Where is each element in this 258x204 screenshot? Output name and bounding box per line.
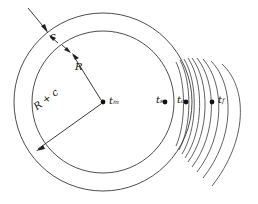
temperature-dot-tf <box>210 100 215 105</box>
temperature-label-tf: tf <box>218 95 224 105</box>
temperature-label-tm: tm <box>109 96 119 106</box>
temperature-label-ts-sub: s <box>160 97 163 104</box>
temperature-label-tc: tc <box>177 95 185 105</box>
radius-Rc-leader-line <box>38 104 101 149</box>
radius-Rc-arrowhead <box>36 145 45 151</box>
inner-radius-label: R <box>75 62 83 72</box>
temperature-dot-tm <box>101 100 106 105</box>
boundary-arc-8 <box>203 61 228 178</box>
temperature-label-ts: ts <box>156 95 163 105</box>
boundary-layer-arcs <box>176 58 240 186</box>
diagram-canvas: c R R + c tm ts tc tf <box>0 0 258 204</box>
wall-thickness-label: c <box>50 31 56 41</box>
radius-R-arrowhead <box>72 53 79 60</box>
temperature-dot-ts <box>163 100 168 105</box>
boundary-arc-9 <box>212 64 240 186</box>
boundary-arc-7 <box>197 59 219 172</box>
temperature-label-tf-sub: f <box>222 97 224 104</box>
temperature-label-tm-sub: m <box>113 98 119 105</box>
temperature-label-tc-sub: c <box>181 97 184 104</box>
